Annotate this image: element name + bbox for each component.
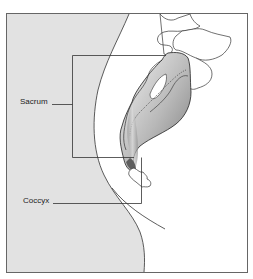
anatomy-diagram — [0, 0, 253, 279]
sacrum-bone — [120, 53, 191, 171]
coccyx-bone — [129, 168, 151, 187]
label-sacrum: Sacrum — [20, 97, 48, 106]
label-coccyx: Coccyx — [23, 196, 49, 205]
